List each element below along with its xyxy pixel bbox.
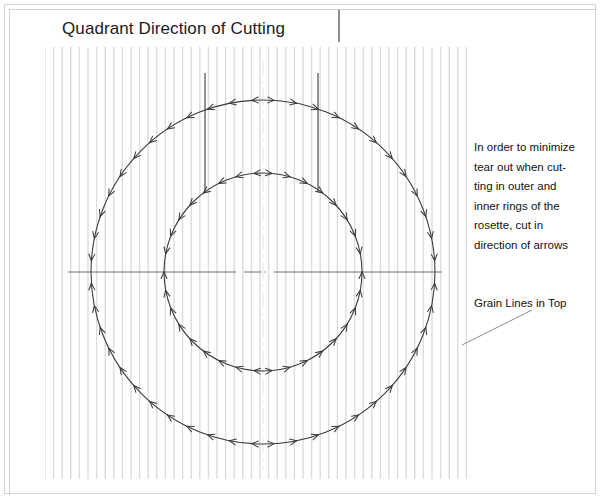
grain-leader-line bbox=[462, 310, 532, 345]
grain-line-icon bbox=[45, 47, 466, 479]
page-title: Quadrant Direction of Cutting bbox=[62, 14, 342, 44]
instruction-note: In order to minimize tear out when cut- … bbox=[474, 138, 594, 255]
grain-lines-label: Grain Lines in Top bbox=[474, 296, 594, 310]
title-block: Quadrant Direction of Cutting bbox=[62, 14, 342, 44]
title-divider bbox=[338, 10, 340, 42]
drawing-page: Quadrant Direction of Cutting In order t… bbox=[0, 0, 601, 499]
